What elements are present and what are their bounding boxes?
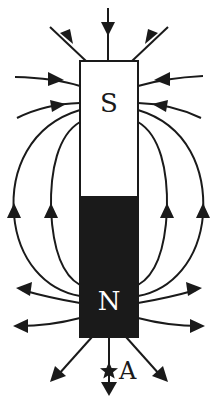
south-pole-label: S <box>100 88 118 118</box>
north-pole-label: N <box>98 286 121 316</box>
bar-magnet-diagram: S N A <box>0 0 214 399</box>
point-a-label: A <box>118 357 137 385</box>
point-a: A <box>100 357 137 385</box>
south-pole <box>80 61 138 198</box>
north-pole <box>80 197 138 337</box>
bar-magnet: S N <box>80 61 138 337</box>
